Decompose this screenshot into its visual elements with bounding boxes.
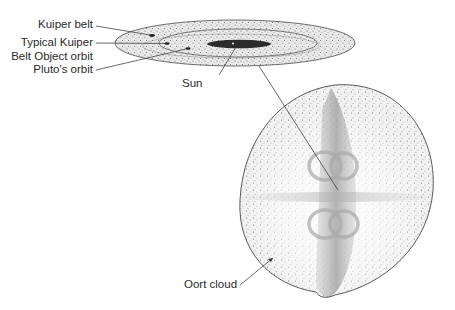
inner-planet-disk (207, 40, 271, 48)
label-kuiper-belt: Kuiper belt (0, 18, 93, 31)
oort-cloud-sphere (240, 85, 433, 298)
label-oort-cloud: Oort cloud (184, 278, 237, 291)
leader-oort-cloud (240, 258, 273, 285)
label-kbo-orbit-line2: Belt Object orbit (0, 50, 93, 63)
leader-kbo-orbit (96, 43, 165, 44)
label-sun: Sun (182, 77, 202, 90)
label-pluto-orbit: Pluto's orbit (0, 63, 93, 76)
label-kbo-orbit-line1: Typical Kuiper (0, 36, 93, 49)
sun-dot (232, 42, 234, 44)
